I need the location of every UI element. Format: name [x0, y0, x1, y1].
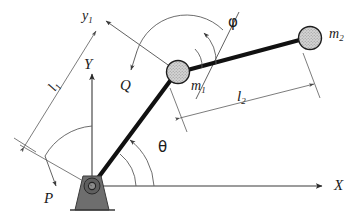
- l2-label: l2: [237, 88, 246, 106]
- Q-arrow: [131, 51, 137, 70]
- mass2-circle: [299, 27, 322, 50]
- mass2-label: m2: [329, 26, 344, 43]
- theta-arc-inner: [120, 154, 136, 186]
- x-axis-label: X: [333, 177, 344, 193]
- link-1: [92, 73, 176, 186]
- l1-ext-line-lower: [20, 145, 92, 186]
- l1-tick-lower: [14, 138, 36, 152]
- l1-label: l1: [45, 79, 64, 95]
- theta-arc: [130, 140, 154, 186]
- angle-theta: [120, 140, 154, 186]
- mechanism-diagram: X Y y1 m1: [0, 0, 359, 219]
- phi-label: φ: [228, 13, 238, 31]
- y-axis-label: Y: [84, 56, 94, 72]
- mass1-label: m1: [191, 78, 206, 95]
- P-label: P: [43, 190, 53, 206]
- Q-label: Q: [120, 77, 131, 93]
- diagram-canvas: X Y y1 m1: [0, 0, 359, 219]
- l2-ext-line-right: [303, 53, 320, 98]
- Q-arc: [137, 15, 223, 51]
- l2-ext-line-left: [170, 88, 187, 132]
- l1-label-group: l1: [45, 79, 64, 95]
- phi-arc: [204, 33, 216, 64]
- P-arc: [45, 126, 92, 156]
- theta-label: θ: [158, 138, 167, 156]
- point-mass-m2: [299, 27, 322, 50]
- y1-axis-label: y1: [80, 8, 93, 25]
